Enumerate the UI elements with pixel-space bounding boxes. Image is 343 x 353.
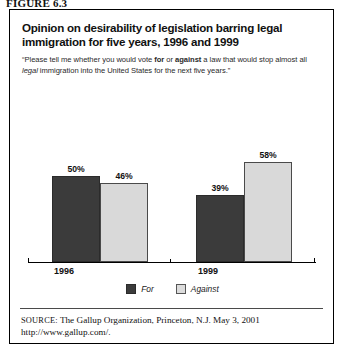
source-note: SOURCE: The Gallup Organization, Princet… (21, 315, 323, 338)
subtitle-part-3: a law that would stop almost all (201, 55, 307, 64)
legend-item-for: For (126, 284, 154, 294)
bar-1999-against: 58% (244, 162, 292, 262)
chart-plot-area: 50% 46% 39% 58% (22, 88, 322, 263)
figure-page: FIGURE 6.3 Opinion on desirability of le… (0, 0, 343, 353)
axis-tick-right (314, 258, 315, 263)
source-url: http://www.gallup.com/. (21, 327, 323, 339)
legend-swatch-for (126, 284, 136, 294)
bar-1996-against: 46% (100, 183, 148, 262)
bar-value-1999-against: 58% (259, 150, 276, 160)
chart-legend: For Against (10, 284, 335, 294)
subtitle-italic-legal: legal (22, 66, 38, 75)
axis-tick-left (28, 258, 29, 263)
bar-value-1996-against: 46% (115, 171, 132, 181)
subtitle-part-2: or (164, 55, 175, 64)
legend-label-for: For (141, 284, 154, 294)
subtitle-bold-for: for (154, 55, 164, 64)
source-label: SOURCE: (21, 316, 58, 325)
source-text: The Gallup Organization, Princeton, N.J.… (58, 315, 260, 325)
bar-group-1999: 39% 58% (196, 90, 292, 262)
bar-value-1996-for: 50% (67, 164, 84, 174)
subtitle-part-4: immigration into the United States for t… (38, 66, 230, 75)
bar-group-1996: 50% 46% (52, 90, 148, 262)
chart-title-line-1: Opinion on desirability of legislation b… (22, 21, 314, 35)
x-axis-line (28, 262, 316, 263)
axis-label-1996: 1996 (54, 266, 74, 276)
chart-subtitle: “Please tell me whether you would vote f… (22, 55, 322, 76)
bar-1996-for: 50% (52, 176, 100, 262)
legend-item-against: Against (176, 284, 219, 294)
legend-label-against: Against (191, 284, 219, 294)
axis-label-1999: 1999 (198, 266, 218, 276)
source-divider (20, 308, 323, 309)
bar-value-1999-for: 39% (211, 183, 228, 193)
legend-swatch-against (176, 284, 186, 294)
subtitle-bold-against: against (175, 55, 201, 64)
axis-tick-middle (170, 259, 171, 263)
bars-container: 50% 46% 39% 58% (28, 90, 316, 262)
bar-1999-for: 39% (196, 195, 244, 262)
figure-box: Opinion on desirability of legislation b… (9, 9, 334, 344)
figure-number: FIGURE 6.3 (6, 0, 67, 9)
chart-title-line-2: immigration for five years, 1996 and 199… (22, 35, 314, 49)
chart-title: Opinion on desirability of legislation b… (22, 21, 314, 49)
subtitle-part-1: “Please tell me whether you would vote (22, 55, 154, 64)
